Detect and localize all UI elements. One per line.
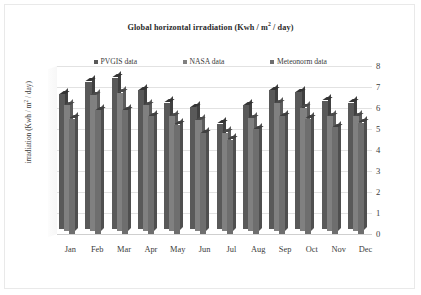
- bar[interactable]: [122, 110, 128, 234]
- y-axis-tick-label: 2: [376, 187, 392, 197]
- bar-group: [267, 66, 293, 234]
- bar[interactable]: [200, 133, 206, 234]
- y-axis-tick-labels: 012345678: [376, 60, 398, 240]
- x-axis-tick-label: Feb: [84, 245, 111, 254]
- bar-top-face: [274, 100, 285, 103]
- x-axis-tick-label: Mar: [111, 245, 138, 254]
- bar-group: [215, 66, 241, 234]
- x-axis-tick-label: Jun: [191, 245, 218, 254]
- y-axis-tick-label: 1: [376, 208, 392, 218]
- x-axis-tick-label: Dec: [352, 245, 379, 254]
- bar[interactable]: [227, 140, 233, 235]
- y-axis-tick-label: 7: [376, 82, 392, 92]
- bar[interactable]: [174, 125, 180, 234]
- bar-side-face: [233, 133, 236, 231]
- bar-side-face: [75, 112, 78, 231]
- legend-item[interactable]: Meteonorm data: [270, 57, 326, 66]
- x-axis-tick-label: May: [164, 245, 191, 254]
- bar-front-face: [69, 119, 75, 235]
- bar-group: [241, 66, 267, 234]
- bar-side-face: [180, 118, 183, 230]
- bar-side-face: [101, 103, 104, 230]
- bar-top-face: [69, 115, 80, 118]
- y-axis-tick-label: 4: [376, 145, 392, 155]
- bar-side-face: [364, 116, 367, 231]
- bar[interactable]: [358, 123, 364, 234]
- legend-item[interactable]: PVGIS data: [94, 57, 137, 66]
- bar-top-face: [59, 91, 70, 94]
- legend-swatch-icon: [94, 60, 98, 64]
- bar-front-face: [174, 125, 180, 234]
- y-axis-tick-label: 3: [376, 166, 392, 176]
- plot-leftwall: [48, 66, 57, 237]
- bar-group: [188, 66, 214, 234]
- chart-frame: Global horizontal irradiation (Kwh / m2 …: [4, 4, 415, 289]
- bar-group: [57, 66, 83, 234]
- x-axis-tick-label: Oct: [298, 245, 325, 254]
- bar-group: [293, 66, 319, 234]
- bar-top-face: [64, 102, 75, 105]
- x-axis-tick-label: Sep: [272, 245, 299, 254]
- bar-side-face: [154, 110, 157, 231]
- bar-series-container: [57, 66, 372, 234]
- x-axis-tick-label: Jan: [57, 245, 84, 254]
- bar-top-face: [279, 113, 290, 116]
- bar-front-face: [305, 119, 311, 235]
- legend-item-label: Meteonorm data: [277, 57, 327, 66]
- chart-title: Global horizontal irradiation (Kwh / m2 …: [5, 21, 416, 32]
- legend-item-label: PVGIS data: [101, 57, 138, 66]
- bar-front-face: [148, 116, 154, 234]
- y-axis-title-main: irradiation (Kwh / m: [24, 103, 33, 164]
- legend-item-label: NASA data: [190, 57, 225, 66]
- bar-side-face: [128, 103, 131, 230]
- bar[interactable]: [332, 127, 338, 234]
- bar-group: [110, 66, 136, 234]
- y-axis-title-tail: / day): [24, 81, 33, 100]
- y-axis-tick-label: 8: [376, 61, 392, 71]
- bar-group: [346, 66, 372, 234]
- bar-group: [83, 66, 109, 234]
- bar-front-face: [358, 123, 364, 234]
- x-axis-tick-labels: JanFebMarAprMayJunJulAugSepOctNovDec: [57, 245, 379, 254]
- bar-side-face: [206, 127, 209, 231]
- chart-title-main: Global horizontal irradiation (Kwh / m: [128, 23, 269, 32]
- bar-front-face: [95, 110, 101, 234]
- y-axis-tick-label: 6: [376, 103, 392, 113]
- bar-front-face: [227, 140, 233, 235]
- bar-side-face: [285, 110, 288, 231]
- bar-top-face: [164, 99, 175, 102]
- bar-group: [162, 66, 188, 234]
- bar[interactable]: [148, 116, 154, 234]
- bar-top-face: [200, 130, 211, 133]
- y-axis-tick-label: 5: [376, 124, 392, 134]
- x-axis-tick-label: Aug: [245, 245, 272, 254]
- bar[interactable]: [305, 119, 311, 235]
- bar[interactable]: [279, 116, 285, 234]
- legend-swatch-icon: [183, 60, 187, 64]
- bar[interactable]: [69, 119, 75, 235]
- legend-item[interactable]: NASA data: [183, 57, 224, 66]
- bar-side-face: [311, 112, 314, 231]
- chart-title-tail: / day): [271, 23, 294, 32]
- bar-side-face: [338, 120, 341, 230]
- y-axis-title: irradiation (Kwh / m2 / day): [23, 52, 33, 192]
- bar[interactable]: [253, 129, 259, 234]
- legend-swatch-icon: [270, 60, 274, 64]
- gridline: [57, 234, 372, 235]
- bar-front-face: [200, 133, 206, 234]
- bar-front-face: [279, 116, 285, 234]
- bar-front-face: [122, 110, 128, 234]
- y-axis-title-superscript: 2: [23, 100, 29, 103]
- bar-group: [136, 66, 162, 234]
- bar-front-face: [332, 127, 338, 234]
- x-axis-tick-label: Apr: [137, 245, 164, 254]
- y-axis-tick-label: 0: [376, 229, 392, 239]
- bar-top-face: [305, 115, 316, 118]
- bar-top-face: [269, 87, 280, 90]
- bar[interactable]: [95, 110, 101, 234]
- bar-top-face: [174, 121, 185, 124]
- bar-group: [320, 66, 346, 234]
- chart-legend: PVGIS dataNASA dataMeteonorm data: [5, 57, 416, 66]
- x-axis-tick-label: Nov: [325, 245, 352, 254]
- x-axis-tick-label: Jul: [218, 245, 245, 254]
